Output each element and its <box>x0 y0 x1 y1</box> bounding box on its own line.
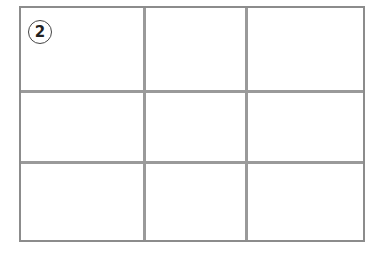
step-number: 2 <box>35 23 45 41</box>
grid-vertical-divider-2 <box>245 8 248 240</box>
grid-vertical-divider-1 <box>143 8 146 240</box>
step-number-badge: 2 <box>28 20 52 44</box>
grid-horizontal-divider-2 <box>21 161 363 164</box>
grid-horizontal-divider-1 <box>21 90 363 93</box>
three-by-three-grid <box>19 6 365 242</box>
